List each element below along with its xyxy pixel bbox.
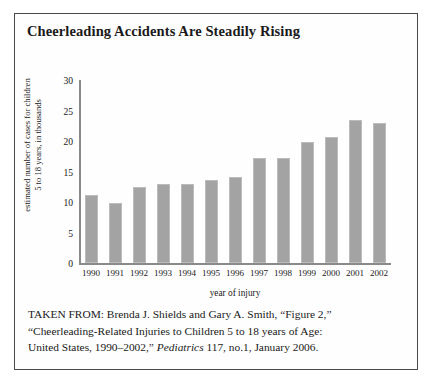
bar: [277, 158, 290, 263]
x-axis-title: year of injury: [79, 288, 391, 298]
y-axis-line: [79, 80, 81, 264]
source-note-line-3-pre: United States, 1990–2002,”: [28, 341, 157, 353]
bar: [205, 180, 218, 263]
y-tick-label: 5: [33, 227, 73, 238]
y-tick-label: 0: [33, 258, 73, 269]
bar: [349, 120, 362, 263]
figure-title: Cheerleading Accidents Are Steadily Risi…: [27, 23, 300, 40]
bar: [181, 184, 194, 263]
journal-name: Pediatrics: [157, 341, 204, 353]
bar: [301, 142, 314, 263]
x-axis-line: [79, 263, 391, 265]
bar: [253, 158, 266, 263]
bar: [109, 203, 122, 263]
y-tick-label: 15: [33, 166, 73, 177]
y-tick-label: 10: [33, 197, 73, 208]
y-tick-label: 20: [33, 136, 73, 147]
bar: [157, 184, 170, 263]
figure-frame: Cheerleading Accidents Are Steadily Risi…: [14, 13, 418, 370]
bar-chart: estimated number of cases for children 5…: [15, 48, 419, 300]
source-note-line-2: “Cheerleading-Related Injuries to Childr…: [28, 323, 410, 340]
source-note-line-1: TAKEN FROM: Brenda J. Shields and Gary A…: [28, 306, 410, 323]
bar: [133, 187, 146, 263]
plot-area: 051015202530 199019911992199319941995199…: [79, 72, 391, 264]
y-tick-label: 30: [33, 75, 73, 86]
source-note-line-3-post: 117, no.1, January 2006.: [204, 341, 319, 353]
x-tick-label: 2002: [359, 268, 399, 278]
source-note: TAKEN FROM: Brenda J. Shields and Gary A…: [28, 306, 410, 356]
y-axis-title-line-1: estimated number of cases for children: [22, 51, 33, 239]
bar: [85, 195, 98, 263]
bar: [229, 177, 242, 263]
bar: [325, 137, 338, 263]
y-tick-label: 25: [33, 105, 73, 116]
bar: [373, 123, 386, 263]
source-note-line-3: United States, 1990–2002,” Pediatrics 11…: [28, 339, 410, 356]
